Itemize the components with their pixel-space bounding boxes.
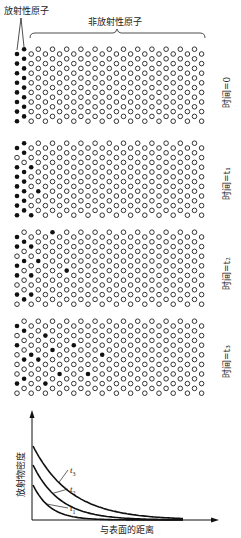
non-radioactive-atom — [15, 372, 20, 377]
non-radioactive-atom — [93, 338, 98, 343]
non-radioactive-atom — [50, 66, 55, 71]
non-radioactive-atom — [86, 155, 91, 160]
non-radioactive-atom — [36, 95, 41, 100]
non-radioactive-atom — [143, 175, 148, 180]
non-radioactive-atom — [121, 278, 126, 283]
non-radioactive-atom — [157, 333, 162, 338]
non-radioactive-atom — [43, 194, 48, 199]
non-radioactive-atom — [178, 278, 183, 283]
non-radioactive-atom — [135, 278, 140, 283]
non-radioactive-atom — [107, 357, 112, 362]
non-radioactive-atom — [143, 381, 148, 386]
non-radioactive-atom — [164, 249, 169, 254]
non-radioactive-atom — [107, 85, 112, 90]
non-radioactive-atom — [128, 343, 133, 348]
non-radioactive-atom — [114, 333, 119, 338]
non-radioactive-atom — [114, 381, 119, 386]
non-radioactive-atom — [100, 273, 105, 278]
radioactive-atom — [15, 175, 20, 180]
non-radioactive-atom — [107, 151, 112, 156]
density-curves — [33, 446, 183, 520]
non-radioactive-atom — [164, 141, 169, 146]
non-radioactive-atom — [79, 66, 84, 71]
non-radioactive-atom — [29, 333, 34, 338]
non-radioactive-atom — [57, 273, 62, 278]
non-radioactive-atom — [57, 343, 62, 348]
radioactive-atom — [15, 203, 20, 208]
non-radioactive-atom — [107, 249, 112, 254]
non-radioactive-atom — [57, 90, 62, 95]
non-radioactive-atom — [171, 353, 176, 358]
non-radioactive-atom — [150, 189, 155, 194]
non-radioactive-atom — [64, 189, 69, 194]
non-radioactive-atom — [114, 165, 119, 170]
non-radioactive-atom — [135, 76, 140, 81]
non-radioactive-atom — [57, 155, 62, 160]
non-radioactive-atom — [79, 386, 84, 391]
non-radioactive-atom — [22, 278, 27, 283]
non-radioactive-atom — [128, 244, 133, 249]
non-radioactive-atom — [121, 179, 126, 184]
non-radioactive-atom — [199, 100, 204, 105]
non-radioactive-atom — [64, 114, 69, 119]
non-radioactive-atom — [29, 71, 34, 76]
non-radioactive-atom — [121, 386, 126, 391]
non-radioactive-atom — [171, 213, 176, 218]
non-radioactive-atom — [43, 146, 48, 151]
non-radioactive-atom — [100, 165, 105, 170]
non-radioactive-atom — [64, 76, 69, 81]
non-radioactive-atom — [79, 249, 84, 254]
non-radioactive-atom — [128, 254, 133, 259]
radioactive-atom — [64, 268, 69, 273]
non-radioactive-atom — [72, 175, 77, 180]
non-radioactive-atom — [135, 208, 140, 213]
non-radioactive-atom — [135, 230, 140, 235]
non-radioactive-atom — [57, 254, 62, 259]
radioactive-atom — [86, 372, 91, 377]
non-radioactive-atom — [57, 194, 62, 199]
non-radioactive-atom — [50, 240, 55, 245]
non-radioactive-atom — [171, 61, 176, 66]
non-radioactive-atom — [100, 213, 105, 218]
non-radioactive-atom — [150, 47, 155, 52]
non-radioactive-atom — [29, 254, 34, 259]
lattice-panels — [15, 47, 204, 396]
non-radioactive-atom — [114, 324, 119, 329]
non-radioactive-atom — [22, 230, 27, 235]
non-radioactive-atom — [93, 268, 98, 273]
non-radioactive-atom — [114, 362, 119, 367]
non-radioactive-atoms-label: 非放射性原子 — [88, 17, 142, 27]
panel-time-label-2: 时间=t₂ — [222, 257, 232, 290]
non-radioactive-atom — [185, 155, 190, 160]
non-radioactive-atom — [199, 119, 204, 124]
non-radioactive-atom — [178, 105, 183, 110]
non-radioactive-atom — [107, 114, 112, 119]
radioactive-atom — [22, 199, 27, 204]
non-radioactive-atom — [143, 119, 148, 124]
non-radioactive-atom — [64, 338, 69, 343]
non-radioactive-atom — [135, 377, 140, 382]
radioactive-atom — [15, 213, 20, 218]
non-radioactive-atom — [128, 175, 133, 180]
panel-time-label-0: 时间=0 — [222, 77, 232, 108]
non-radioactive-atom — [128, 100, 133, 105]
non-radioactive-atom — [157, 109, 162, 114]
non-radioactive-atom — [107, 297, 112, 302]
non-radioactive-atom — [114, 302, 119, 307]
non-radioactive-atom — [128, 71, 133, 76]
non-radioactive-atom — [128, 194, 133, 199]
non-radioactive-atom — [192, 377, 197, 382]
non-radioactive-atom — [178, 367, 183, 372]
non-radioactive-atom — [192, 386, 197, 391]
non-radioactive-atom — [50, 268, 55, 273]
radioactive-atom — [15, 264, 20, 269]
non-radioactive-atom — [199, 52, 204, 57]
non-radioactive-atom — [135, 199, 140, 204]
non-radioactive-atom — [121, 160, 126, 165]
non-radioactive-atom — [150, 278, 155, 283]
non-radioactive-atom — [178, 377, 183, 382]
non-radioactive-atom — [79, 199, 84, 204]
non-radioactive-atom — [121, 141, 126, 146]
non-radioactive-atom — [128, 203, 133, 208]
non-radioactive-atom — [157, 61, 162, 66]
